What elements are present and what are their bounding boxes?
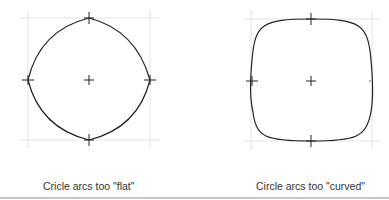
right-cross-marks — [246, 13, 371, 147]
caption-curved: Circle arcs too "curved" — [256, 180, 365, 192]
left-grid-guides — [20, 10, 160, 148]
right-grid-guides — [244, 10, 380, 150]
curved-arc-shape — [251, 19, 373, 141]
caption-flat: Cricle arcs too "flat" — [43, 180, 134, 192]
bottom-divider — [0, 197, 389, 199]
diagram-canvas — [0, 0, 389, 200]
left-cross-marks — [22, 12, 156, 146]
